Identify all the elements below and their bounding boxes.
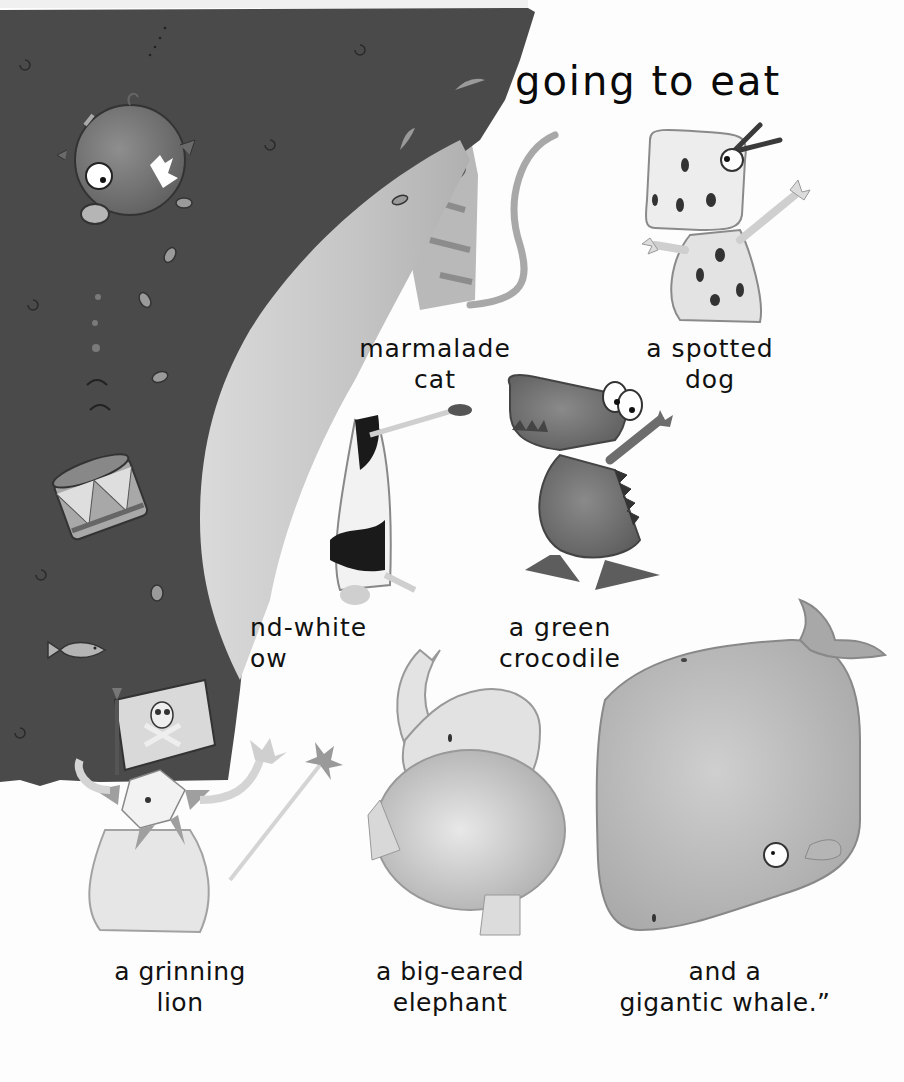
caption-lion: a grinning lion [95, 956, 265, 1018]
cow-illustration [330, 404, 472, 605]
caption-elephant: a big-eared elephant [365, 956, 535, 1018]
page-heading: going to eat [515, 58, 781, 104]
caption-cat: marmalade cat [355, 333, 515, 395]
caption-whale: and a gigantic whale.” [610, 956, 840, 1018]
caption-crocodile: a green crocodile [480, 612, 640, 674]
dog-illustration [642, 125, 810, 322]
crocodile-illustration [509, 375, 673, 590]
book-page: going to eat marmalade cat a spotted dog… [0, 0, 904, 1082]
elephant-illustration [368, 650, 565, 935]
caption-dog: a spotted dog [630, 333, 790, 395]
caption-cow: nd-white ow [250, 612, 367, 674]
illustration-layer [0, 0, 904, 1082]
